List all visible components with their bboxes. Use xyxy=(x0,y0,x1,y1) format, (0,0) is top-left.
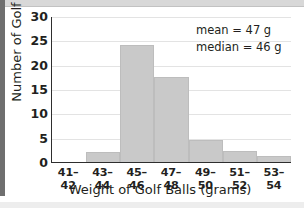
bar-slot xyxy=(154,17,188,162)
bar xyxy=(223,151,257,162)
y-axis-tick-label: 0 xyxy=(8,157,48,170)
y-axis-title: Number of Golf Balls xyxy=(9,0,24,115)
bar-slot xyxy=(52,17,86,162)
median-annotation: median = 46 g xyxy=(196,39,282,56)
y-axis-tick-label: 5 xyxy=(8,133,48,146)
page-bottom-strip xyxy=(0,202,304,208)
bar-slot xyxy=(120,17,154,162)
bar xyxy=(257,156,291,162)
bar-slot xyxy=(86,17,120,162)
bar xyxy=(86,152,120,162)
histogram-figure: 051015202530 Number of Golf Balls 41–424… xyxy=(0,0,304,208)
statistics-annotation: mean = 47 g median = 46 g xyxy=(196,22,282,56)
bar xyxy=(189,140,223,162)
mean-annotation: mean = 47 g xyxy=(196,22,282,39)
page-top-crop-strip xyxy=(5,0,304,7)
page-gutter-strip xyxy=(0,0,5,196)
x-axis-title: Weight of Golf Balls (grams) xyxy=(20,182,300,197)
bar xyxy=(154,77,188,162)
bar xyxy=(120,45,154,162)
